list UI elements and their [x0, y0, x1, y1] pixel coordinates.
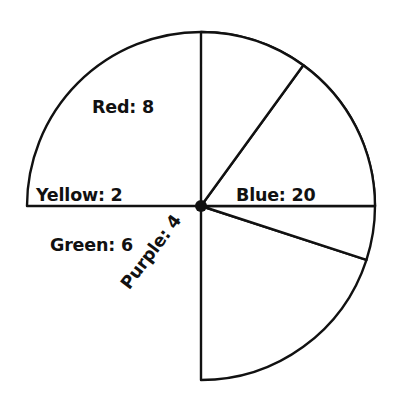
pie-label-yellow: Yellow: 2 — [36, 187, 123, 205]
pie-label-red: Red: 8 — [92, 99, 154, 117]
pie-center-dot — [195, 200, 207, 212]
pie-chart-figure: Red: 8 Yellow: 2 Green: 6 Blue: 20 Purpl… — [0, 0, 394, 402]
pie-label-blue: Blue: 20 — [236, 187, 316, 205]
pie-label-green: Green: 6 — [50, 237, 133, 255]
